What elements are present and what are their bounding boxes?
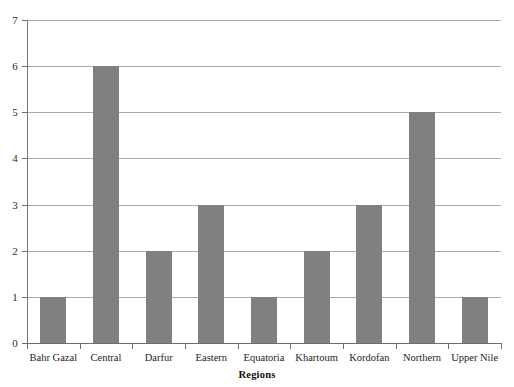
bar-eastern [198, 205, 224, 343]
y-tick-label-0: 0 [0, 338, 18, 349]
bar-central [93, 66, 119, 343]
bar-darfur [146, 251, 172, 343]
x-tick-1 [80, 344, 81, 349]
x-tick-7 [396, 344, 397, 349]
y-tick-label-4: 4 [0, 153, 18, 164]
x-tick-4 [238, 344, 239, 349]
y-tick-label-3: 3 [0, 200, 18, 211]
x-axis-line [27, 343, 502, 344]
x-tick-6 [343, 344, 344, 349]
bar-northern [409, 112, 435, 343]
x-tick-9 [501, 344, 502, 349]
x-label-bahr-gazal: Bahr Gazal [27, 352, 80, 364]
bar-upper-nile [462, 297, 488, 343]
y-tick-label-2: 2 [0, 246, 18, 257]
x-label-northern: Northern [396, 352, 449, 364]
y-tick-label-7: 7 [0, 15, 18, 26]
x-tick-8 [448, 344, 449, 349]
x-label-upper-nile: Upper Nile [448, 352, 501, 364]
bars-container [27, 20, 501, 343]
x-tick-3 [185, 344, 186, 349]
x-axis-title: Regions [0, 369, 514, 380]
bar-chart: 01234567 Bahr GazalCentralDarfurEasternE… [0, 0, 514, 387]
bar-kordofan [356, 205, 382, 343]
x-label-central: Central [80, 352, 133, 364]
x-tick-2 [132, 344, 133, 349]
x-label-kordofan: Kordofan [343, 352, 396, 364]
bar-bahr-gazal [40, 297, 66, 343]
x-label-darfur: Darfur [132, 352, 185, 364]
y-tick-label-6: 6 [0, 61, 18, 72]
x-tick-5 [290, 344, 291, 349]
y-tick-label-1: 1 [0, 292, 18, 303]
bar-equatoria [251, 297, 277, 343]
bar-khartoum [304, 251, 330, 343]
x-tick-0 [27, 344, 28, 349]
y-tick-label-5: 5 [0, 107, 18, 118]
x-label-eastern: Eastern [185, 352, 238, 364]
x-label-equatoria: Equatoria [238, 352, 291, 364]
x-label-khartoum: Khartoum [290, 352, 343, 364]
